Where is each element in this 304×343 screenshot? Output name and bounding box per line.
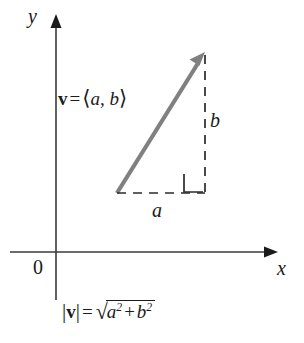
x-axis-arrowhead (264, 247, 278, 258)
vector-name-bold: v (58, 88, 68, 109)
vector-comma: , (100, 88, 105, 109)
vector-arrowhead (190, 52, 206, 66)
y-axis-arrowhead (51, 14, 62, 28)
vector-diagram-figure: y x 0 a b v=⟨a, b⟩ |v|=√a2+b2 (0, 0, 304, 343)
radicand-plus-sign: + (122, 301, 137, 322)
radicand-expression: a2+b2 (106, 300, 156, 321)
vector-component-a: a (90, 88, 100, 109)
radicand-term-a: a (107, 301, 117, 322)
component-a-label: a (152, 200, 162, 220)
magnitude-equals-sign: = (80, 301, 95, 322)
origin-label: 0 (33, 257, 43, 277)
magnitude-formula: |v|=√a2+b2 (62, 300, 155, 323)
magnitude-vector-name: v (66, 301, 76, 322)
vector-definition-label: v=⟨a, b⟩ (58, 88, 127, 109)
component-b-label: b (210, 110, 220, 130)
radicand-term-b: b (137, 301, 147, 322)
x-axis-label: x (277, 258, 286, 278)
square-root-group: √a2+b2 (95, 300, 156, 323)
angle-bracket-close-icon: ⟩ (119, 86, 127, 110)
vector-arrow-shaft (117, 64, 198, 193)
vector-equals-sign: = (68, 88, 83, 109)
y-axis-label: y (28, 6, 37, 26)
diagram-canvas (0, 0, 304, 343)
radicand-exponent-b: 2 (146, 301, 152, 314)
vector-component-b: b (109, 88, 119, 109)
right-angle-marker (184, 174, 203, 192)
